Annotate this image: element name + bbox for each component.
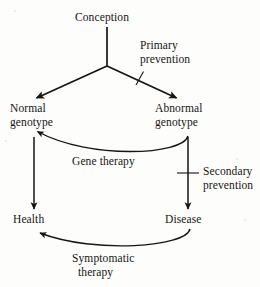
node-health-label: Health: [13, 214, 44, 226]
gene-therapy-line1: Gene therapy: [72, 156, 135, 168]
node-normal-genotype-label-line2: genotype: [10, 117, 53, 129]
node-abnormal-genotype-label-line1: Abnormal: [155, 103, 202, 115]
node-abnormal-genotype-label-line2: genotype: [155, 117, 202, 129]
edge-split-to-normal-genotype: [37, 66, 108, 98]
edge-label-gene-therapy: Gene therapy: [72, 156, 135, 168]
edge-symptomatic-therapy-curve: [40, 229, 190, 246]
scan-speckle: [5, 140, 7, 142]
edge-label-primary-prevention: Primary prevention: [140, 40, 190, 65]
scan-speckle: [14, 10, 16, 12]
node-conception: Conception: [75, 12, 129, 24]
scan-speckle: [236, 158, 238, 160]
node-health: Health: [13, 214, 44, 226]
symptomatic-therapy-line2: therapy: [78, 267, 134, 279]
diagram-svg: [0, 0, 260, 287]
node-conception-label: Conception: [75, 12, 129, 24]
edge-gene-therapy-curve: [38, 132, 189, 152]
edge-label-secondary-prevention: Secondary prevention: [203, 166, 253, 191]
node-disease-label: Disease: [165, 214, 201, 226]
secondary-prevention-line2: prevention: [203, 180, 253, 192]
scan-speckle: [244, 219, 246, 221]
secondary-prevention-line1: Secondary: [203, 166, 253, 178]
symptomatic-therapy-line1: Symptomatic: [72, 253, 134, 265]
edge-label-symptomatic-therapy: Symptomatic therapy: [72, 253, 134, 278]
edge-split-to-abnormal-genotype: [107, 66, 177, 98]
node-abnormal-genotype: Abnormal genotype: [155, 103, 202, 128]
node-normal-genotype: Normal genotype: [10, 103, 53, 128]
node-normal-genotype-label-line1: Normal: [10, 103, 53, 115]
diagram-canvas: Conception Normal genotype Abnormal geno…: [0, 0, 260, 287]
primary-prevention-line2: prevention: [140, 54, 190, 66]
primary-prevention-line1: Primary: [140, 40, 190, 52]
node-disease: Disease: [165, 214, 201, 226]
